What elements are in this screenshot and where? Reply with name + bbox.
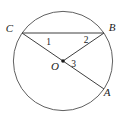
label-point-C: C bbox=[6, 22, 14, 34]
label-point-B: B bbox=[109, 21, 116, 33]
geometry-figure: C B A O 1 2 3 bbox=[0, 0, 125, 125]
label-angle-1: 1 bbox=[46, 37, 51, 47]
circle-diagram-svg: C B A O 1 2 3 bbox=[0, 0, 125, 125]
label-point-O: O bbox=[51, 60, 59, 72]
label-angle-3: 3 bbox=[71, 59, 76, 69]
label-angle-2: 2 bbox=[84, 35, 89, 45]
label-point-A: A bbox=[103, 86, 111, 98]
center-point-O bbox=[61, 59, 65, 63]
